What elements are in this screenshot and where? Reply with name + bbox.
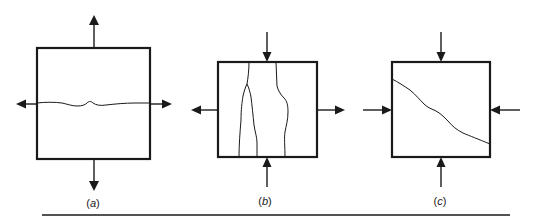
panel-a: (a): [16, 15, 172, 209]
arrow-left-icon: [490, 106, 520, 115]
panel-label-a: (a): [86, 197, 99, 209]
arrow-down-icon: [89, 159, 99, 191]
arrow-up-icon: [263, 157, 272, 187]
crack-pattern-diagram: (a) (b): [0, 0, 533, 223]
arrow-left-icon: [16, 100, 37, 109]
specimen-box-b: [218, 62, 317, 157]
diagonal-crack: [392, 79, 490, 144]
arrow-right-icon: [317, 106, 345, 115]
vertical-crack-branch: [247, 84, 257, 157]
vertical-crack-left: [239, 62, 249, 157]
arrow-left-icon: [191, 106, 218, 115]
arrow-right-icon: [150, 100, 172, 109]
vertical-crack-right: [276, 62, 288, 157]
specimen-box-c: [392, 62, 490, 157]
panel-label-b: (b): [258, 195, 271, 207]
arrow-up-icon: [437, 157, 446, 187]
arrow-up-icon: [89, 15, 99, 48]
arrow-down-icon: [263, 32, 272, 62]
horizontal-crack: [37, 102, 150, 107]
panel-label-c: (c): [434, 195, 447, 207]
arrow-down-icon: [437, 32, 446, 62]
arrow-right-icon: [363, 106, 392, 115]
panel-b: (b): [191, 32, 345, 207]
panel-c: (c): [363, 32, 520, 207]
